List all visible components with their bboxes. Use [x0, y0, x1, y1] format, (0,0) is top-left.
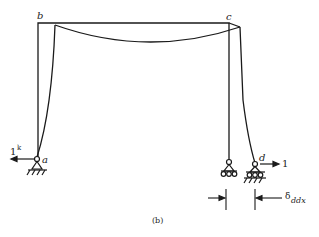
dimension-symbol: δ — [285, 191, 290, 201]
figure-caption: (b) — [152, 216, 163, 225]
frame-diagram: b c a d 1 k 1 δ ddx (b) — [0, 0, 319, 237]
node-label-a: a — [42, 154, 48, 165]
deflected-left-column — [37, 25, 55, 157]
dimension-arrowhead-right — [256, 196, 262, 201]
right-load-label: 1 — [282, 158, 288, 169]
left-load-unit: k — [17, 144, 22, 152]
deflected-right-column — [240, 27, 255, 163]
dimension-arrowhead-left — [219, 196, 225, 201]
node-label-d: d — [259, 152, 265, 163]
node-label-b: b — [37, 10, 43, 21]
roller-support-original — [221, 160, 237, 177]
left-load-label: 1 — [10, 146, 16, 157]
roller-support-d — [244, 162, 266, 184]
node-label-c: c — [226, 11, 232, 22]
original-frame — [38, 23, 229, 160]
deflected-beam — [55, 25, 240, 42]
right-load-arrowhead — [273, 162, 279, 167]
dimension-subscript: ddx — [291, 196, 306, 205]
left-load-arrowhead — [11, 157, 17, 162]
right-column-top-link — [229, 23, 240, 27]
